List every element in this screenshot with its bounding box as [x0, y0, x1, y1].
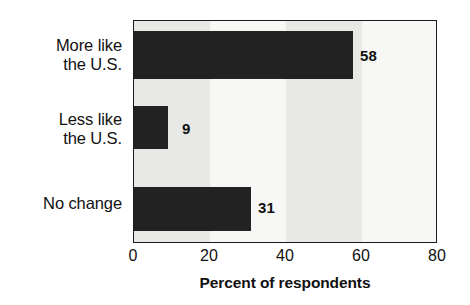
- value-label-no-change: 31: [258, 199, 275, 216]
- x-tick-label-0: 0: [113, 247, 153, 265]
- bar-less-like-us: [134, 106, 168, 149]
- x-tick-label-80: 80: [417, 247, 457, 265]
- x-tick-label-20: 20: [189, 247, 229, 265]
- x-axis-title: Percent of respondents: [133, 274, 437, 292]
- plot-area: [133, 20, 437, 243]
- bar-chart: More like the U.S. Less like the U.S. No…: [0, 0, 470, 305]
- x-tick-label-60: 60: [341, 247, 381, 265]
- bar-more-like-us: [134, 31, 353, 79]
- category-label-no-change: No change: [43, 194, 122, 213]
- category-label-more-like-us: More like the U.S.: [56, 36, 122, 74]
- value-label-less-like-us: 9: [182, 120, 191, 137]
- category-label-less-like-us: Less like the U.S.: [59, 110, 122, 148]
- value-label-more-like-us: 58: [360, 47, 377, 64]
- bar-no-change: [134, 187, 251, 231]
- x-tick-label-40: 40: [265, 247, 305, 265]
